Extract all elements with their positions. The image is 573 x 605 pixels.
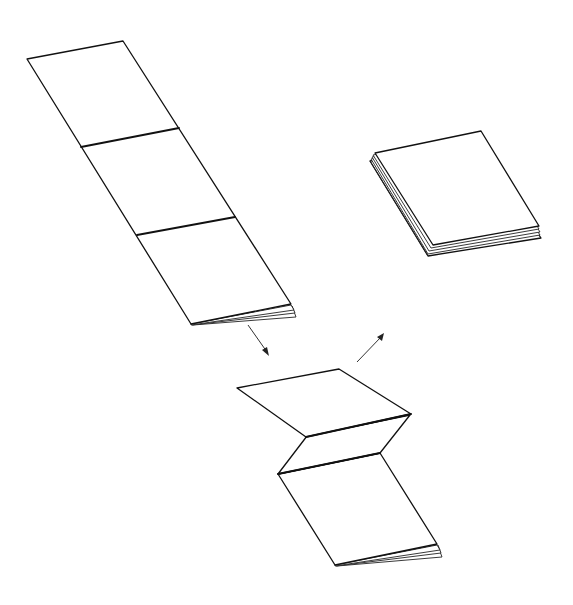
zigzag-fold	[237, 369, 442, 566]
booklet-front-cover	[375, 131, 539, 245]
arrow-up-right-icon	[357, 333, 384, 362]
strip-outline	[27, 41, 291, 324]
folding-diagram	[0, 0, 573, 605]
arrow-down-right-icon	[248, 325, 269, 356]
finished-booklet	[370, 131, 541, 256]
unfolded-strip	[27, 41, 296, 325]
